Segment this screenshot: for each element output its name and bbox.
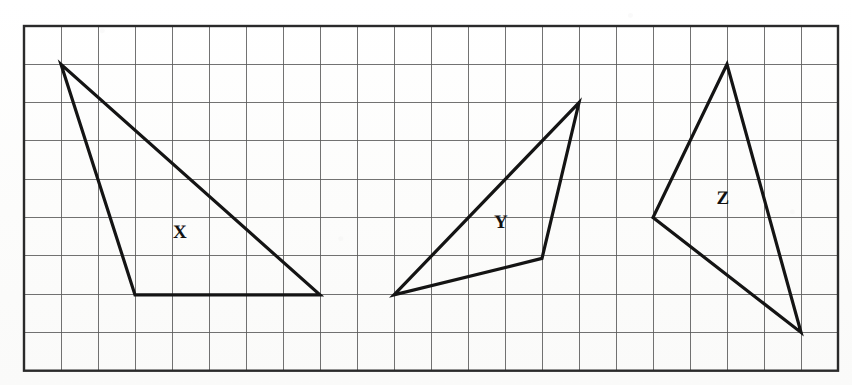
shape-label-z: Z [717,189,730,208]
shape-label-y: Y [494,213,508,232]
triangle-y [394,103,579,295]
figure-canvas: X Y Z [0,0,852,385]
shape-label-x: X [173,223,187,242]
